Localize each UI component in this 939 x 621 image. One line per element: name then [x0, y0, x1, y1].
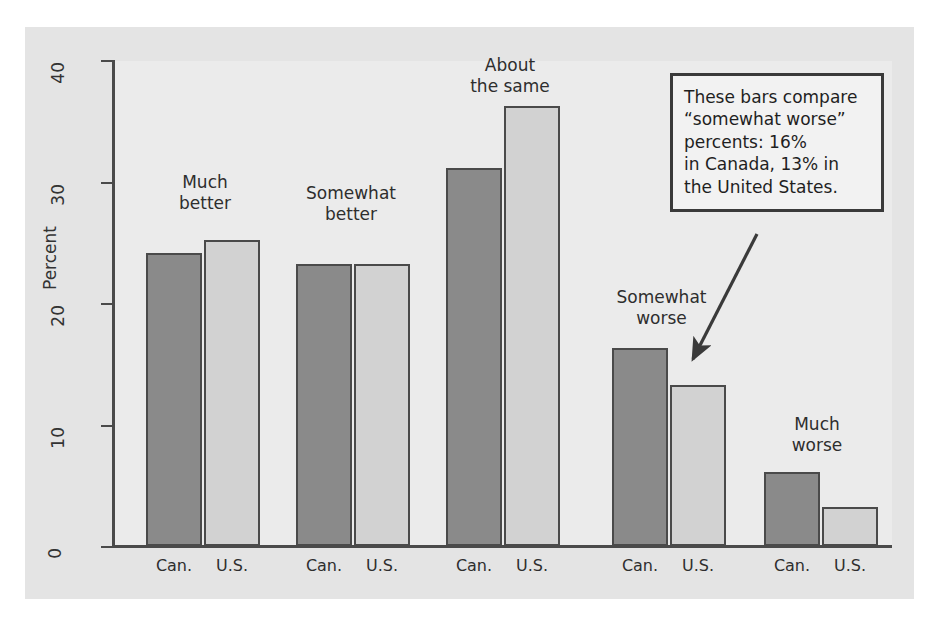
x-label-can-somewhat-worse: Can.	[610, 556, 670, 575]
x-label-us-somewhat-better: U.S.	[352, 556, 412, 575]
y-tick-20	[101, 303, 113, 305]
group-label-much-better: Much better	[150, 172, 260, 213]
bar-us-about-the-same	[504, 106, 560, 546]
group-label-somewhat-better: Somewhat better	[286, 183, 416, 224]
y-tick-label-30: 30	[48, 184, 68, 206]
y-tick-40	[101, 60, 113, 62]
group-label-somewhat-worse: Somewhat worse	[594, 287, 729, 328]
bar-us-much-better	[204, 240, 260, 546]
bar-can-about-the-same	[446, 168, 502, 546]
annotation-callout: These bars compare “somewhat worse” perc…	[670, 73, 884, 212]
group-label-about-the-same: About the same	[440, 55, 580, 96]
y-tick-label-40: 40	[48, 62, 68, 84]
y-axis-title: Percent	[40, 226, 60, 290]
bar-us-somewhat-better	[354, 264, 410, 546]
bar-can-much-worse	[764, 472, 820, 546]
x-label-can-much-worse: Can.	[762, 556, 822, 575]
y-tick-30	[101, 182, 113, 184]
x-label-can-much-better: Can.	[144, 556, 204, 575]
x-label-us-much-worse: U.S.	[820, 556, 880, 575]
x-label-us-about-the-same: U.S.	[502, 556, 562, 575]
bar-can-much-better	[146, 253, 202, 546]
x-label-us-much-better: U.S.	[202, 556, 262, 575]
y-tick-label-20: 20	[48, 305, 68, 327]
y-tick-0	[101, 546, 113, 548]
bar-us-somewhat-worse	[670, 385, 726, 546]
y-tick-label-10: 10	[48, 427, 68, 449]
x-label-can-somewhat-better: Can.	[294, 556, 354, 575]
group-label-much-worse: Much worse	[762, 414, 872, 455]
x-label-can-about-the-same: Can.	[444, 556, 504, 575]
x-label-us-somewhat-worse: U.S.	[668, 556, 728, 575]
bar-us-much-worse	[822, 507, 878, 546]
bar-can-somewhat-better	[296, 264, 352, 546]
y-tick-10	[101, 425, 113, 427]
figure-root: 40 30 20 10 0 Percent Much better Can. U…	[0, 0, 939, 621]
bar-can-somewhat-worse	[612, 348, 668, 546]
y-tick-label-0: 0	[45, 548, 65, 559]
